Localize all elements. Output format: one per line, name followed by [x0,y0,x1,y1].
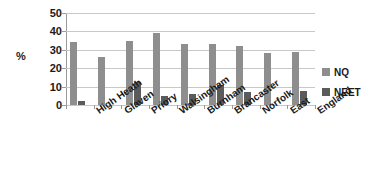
x-category-label: Burnham [205,107,211,116]
legend-swatch-icon [322,68,330,76]
y-tick-label: 40 [36,26,62,37]
x-category-label: High Heath [94,107,100,116]
y-axis-title: % [16,50,26,62]
bar-nq-high-heath [70,42,77,105]
y-tick-label: 0 [36,100,62,111]
x-axis-category-labels: High HeathGlavenPrioryWalsinghamBurnhamB… [66,107,326,183]
bar-nq-burnham [181,44,188,105]
legend-item-neet[interactable]: NEET [322,82,380,102]
x-category-label: East [288,107,294,116]
bar-nq-glaven [98,57,105,105]
y-tick-mark [62,68,66,69]
y-tick-label: 50 [36,8,62,19]
gridline [66,31,315,32]
y-axis-line [66,13,67,105]
y-tick-mark [62,50,66,51]
bar-neet-high-heath [78,101,85,105]
plot-area [66,13,315,105]
y-axis-tick-labels: 01020304050 [32,13,62,105]
y-tick-mark [62,87,66,88]
legend-item-nq[interactable]: NQ [322,62,380,82]
bar-nq-walsingham [153,33,160,105]
x-category-label: Norfolk [260,107,266,116]
legend-label: NEET [334,87,361,98]
y-tick-mark [62,13,66,14]
x-category-label: Walsingham [177,107,183,116]
bar-chart: % 01020304050 High HeathGlavenPrioryWals… [0,0,383,183]
legend-label: NQ [334,67,349,78]
x-category-label: England [315,107,321,116]
x-category-label: Glaven [122,107,128,116]
y-tick-mark [62,31,66,32]
x-category-label: Brancaster [232,107,238,116]
y-tick-label: 20 [36,63,62,74]
y-tick-label: 10 [36,82,62,93]
gridline [66,13,315,14]
legend-swatch-icon [322,88,330,96]
gridline [66,50,315,51]
x-category-label: Priory [149,107,155,116]
chart-legend: NQNEET [322,62,380,102]
y-tick-label: 30 [36,45,62,56]
